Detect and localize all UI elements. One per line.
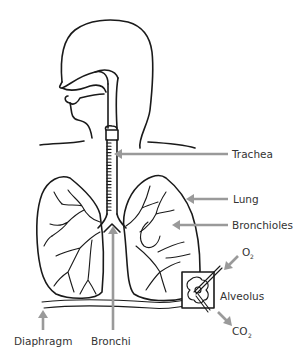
trachea [105,126,118,214]
alveolus-inset [182,266,222,312]
label-bronchi: Bronchi [91,335,131,347]
label-diaphragm: Diaphragm [14,335,72,347]
bronchioles-arrow-head [172,220,180,230]
label-co2-subscript: 2 [248,332,252,339]
respiratory-diagram: Trachea Lung Bronchioles O 2 Alveolus CO… [0,0,305,352]
label-o2-subscript: 2 [250,253,254,260]
trachea-arrow-head [114,149,122,159]
label-lung: Lung [233,193,259,205]
diaphragm-arrow-head [38,310,48,318]
label-alveolus: Alveolus [220,290,264,302]
label-bronchioles: Bronchioles [232,219,293,231]
label-co2: CO [232,325,248,337]
diagram-canvas: Trachea Lung Bronchioles O 2 Alveolus CO… [0,0,305,352]
left-lung [37,177,104,298]
label-trachea: Trachea [231,148,273,160]
